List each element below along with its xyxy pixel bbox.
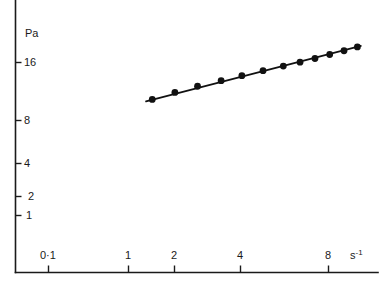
datapoint-2 <box>194 83 201 90</box>
datapoint-0 <box>149 96 156 103</box>
chart-figure: 16 8 4 2 1 Pa 0·1 1 2 4 8 s-1 <box>0 0 386 284</box>
x-axis-title-exponent: -1 <box>356 248 364 257</box>
x-axis-title: s-1 <box>350 248 363 261</box>
datapoint-9 <box>326 51 333 58</box>
datapoint-5 <box>260 67 267 74</box>
y-tick-label-16: 16 <box>24 56 36 68</box>
datapoint-1 <box>172 89 179 96</box>
y-axis-tick-labels: 16 8 4 2 1 <box>24 56 36 221</box>
y-tick-label-1: 1 <box>26 209 32 221</box>
axes-group <box>16 0 379 273</box>
datapoint-11 <box>354 44 361 51</box>
y-tick-label-2: 2 <box>28 190 34 202</box>
x-tick-label-2: 2 <box>171 249 177 261</box>
datapoint-6 <box>280 63 287 70</box>
datapoint-3 <box>218 77 225 84</box>
y-tick-label-8: 8 <box>24 114 30 126</box>
y-tick-label-4: 4 <box>24 157 30 169</box>
x-tick-label-8: 8 <box>325 249 331 261</box>
log-log-scatter-plot: 16 8 4 2 1 Pa 0·1 1 2 4 8 s-1 <box>0 0 386 284</box>
x-axis-tick-labels: 0·1 1 2 4 8 <box>40 249 331 261</box>
datapoint-4 <box>238 72 245 79</box>
y-axis-title: Pa <box>25 27 39 39</box>
datapoint-10 <box>341 47 348 54</box>
x-tick-label-4: 4 <box>237 249 243 261</box>
x-tick-label-1: 1 <box>125 249 131 261</box>
y-axis-ticks <box>16 63 22 216</box>
datapoint-7 <box>297 59 304 66</box>
datapoint-8 <box>312 55 319 62</box>
x-tick-label-0.1: 0·1 <box>40 249 56 261</box>
x-axis-ticks <box>49 266 329 273</box>
